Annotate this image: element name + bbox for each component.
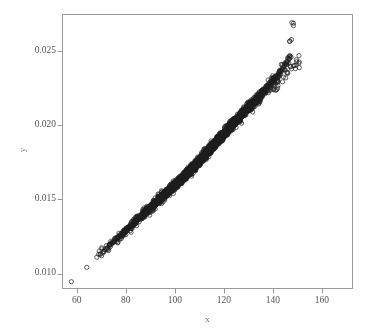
y-tick-label: 0.015 [28,193,56,203]
scatter-plot-figure: 0.010 0.015 0.020 0.025 60 80 100 120 14… [0,0,373,335]
y-tick-label: 0.010 [28,267,56,277]
x-tick-label: 160 [308,295,336,305]
x-tick-label: 60 [63,295,91,305]
x-tick-label: 140 [259,295,287,305]
y-tick-label: 0.020 [28,119,56,129]
y-axis-label: y [17,142,27,158]
x-axis-label: x [200,314,216,324]
y-tick-label: 0.025 [28,45,56,55]
x-tick-label: 80 [112,295,140,305]
x-tick-label: 120 [210,295,238,305]
x-tick-label: 100 [161,295,189,305]
